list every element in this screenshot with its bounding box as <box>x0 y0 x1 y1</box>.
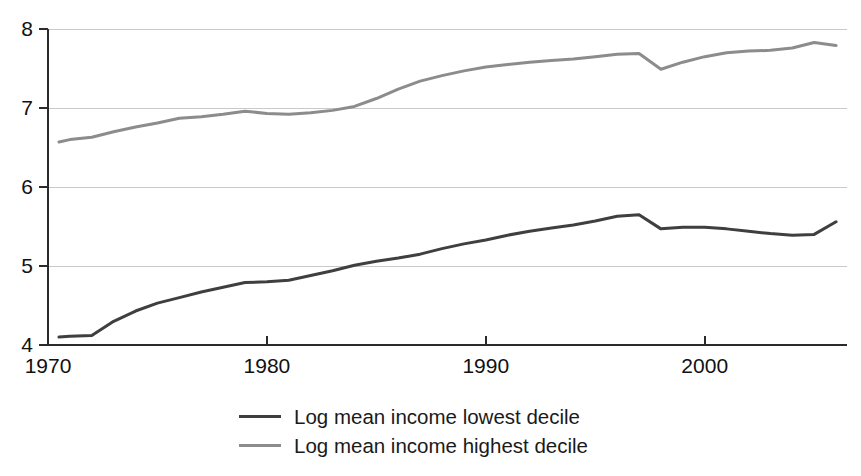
chart-legend: Log mean income lowest decile Log mean i… <box>0 402 861 460</box>
series-line-lowest-decile <box>59 215 836 337</box>
legend-label-lowest-decile: Log mean income lowest decile <box>294 405 580 429</box>
y-tick-label: 8 <box>7 18 33 39</box>
x-tick-label: 2000 <box>660 355 750 376</box>
y-tick-label: 7 <box>7 97 33 118</box>
y-tick-label: 4 <box>7 334 33 355</box>
y-tick-label: 5 <box>7 255 33 276</box>
series-line-highest-decile <box>59 42 836 142</box>
gridlines-group <box>48 29 847 266</box>
x-tick-label: 1990 <box>441 355 531 376</box>
data-series-group <box>59 42 836 337</box>
x-tick-label: 1970 <box>3 355 93 376</box>
chart-container: 45678 1970198019902000 Log mean income l… <box>0 0 861 476</box>
legend-item-highest-decile: Log mean income highest decile <box>0 431 861 460</box>
legend-swatch-lowest-decile <box>239 415 281 418</box>
legend-label-highest-decile: Log mean income highest decile <box>294 434 588 458</box>
legend-item-lowest-decile: Log mean income lowest decile <box>0 402 861 431</box>
y-tick-label: 6 <box>7 176 33 197</box>
x-tick-label: 1980 <box>222 355 312 376</box>
legend-swatch-highest-decile <box>239 444 281 447</box>
